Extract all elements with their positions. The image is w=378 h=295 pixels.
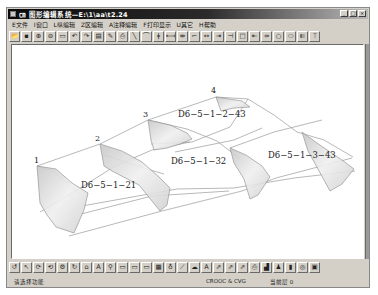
menu-area-edit[interactable]: Z区编辑 (81, 20, 103, 29)
bottom-button-find[interactable]: ⚲ (105, 262, 116, 273)
top-button-redo[interactable]: ↷ (81, 31, 92, 42)
bottom-button-refresh[interactable]: ⟳ (33, 262, 44, 273)
bottom-button-recalc[interactable]: ↻ (69, 262, 80, 273)
export3-icon: ⇗ (240, 264, 245, 271)
top-button-zoom-out[interactable]: ⊖ (45, 31, 56, 42)
top-button-wrench[interactable]: ⌐ (189, 31, 200, 42)
table2-icon: ▭ (131, 264, 137, 271)
top-button-ellipse[interactable]: ⬭ (285, 31, 296, 42)
top-button-save[interactable]: ▪ (21, 31, 32, 42)
bottom-button-chart[interactable]: ▟ (261, 262, 272, 273)
point-label: 2 (95, 134, 100, 143)
close-button[interactable]: × (358, 10, 366, 17)
menu-annotation-edit[interactable]: A注释编辑 (109, 20, 137, 29)
top-button-print[interactable]: ⎙ (117, 31, 128, 42)
rectangle-select-icon: ▭ (59, 33, 65, 40)
top-button-back[interactable]: ⇇ (297, 31, 308, 42)
bottom-button-rotate-left[interactable]: ↺ (9, 262, 20, 273)
maximize-button[interactable]: □ (349, 10, 357, 17)
bottom-button-pointer[interactable]: ↖ (21, 262, 32, 273)
window-title: ㎝ 图形编辑系统—E:\1\aa\t2.24 (19, 9, 128, 19)
top-button-extend-left[interactable]: ⟻ (165, 31, 176, 42)
bottom-button-text[interactable]: A (93, 262, 104, 273)
top-button-rectangle-select[interactable]: ▭ (57, 31, 68, 42)
menu-window[interactable]: I窗口 (34, 20, 48, 29)
top-button-undo[interactable]: ↶ (69, 31, 80, 42)
bottom-button-refresh-all[interactable]: ⟲ (45, 262, 56, 273)
bottom-button-table3[interactable]: ▭ (141, 262, 152, 273)
bottom-button-export3[interactable]: ⇗ (237, 262, 248, 273)
top-button-connect[interactable]: ⇤ (249, 31, 260, 42)
menu-print-display[interactable]: F打印显示 (143, 20, 170, 29)
point-label: 4 (211, 86, 216, 95)
bottom-button-cycle[interactable]: ⚙ (57, 262, 68, 273)
bottom-button-printer[interactable]: ⎙ (249, 262, 260, 273)
chart-icon: ▟ (264, 264, 269, 271)
label-icon: A (204, 264, 208, 271)
section-label: D6−5−1−3−43 (268, 150, 336, 160)
wrench-icon: ⌐ (192, 33, 197, 40)
top-button-layers[interactable]: ▤ (93, 31, 104, 42)
line-icon: ╲ (133, 33, 137, 40)
menu-file[interactable]: E文件 (12, 20, 28, 29)
bottom-button-bulb[interactable]: ♁ (165, 262, 176, 273)
bottom-button-pen[interactable]: ⟋ (177, 262, 188, 273)
cloud-icon: ☁ (191, 264, 198, 271)
top-button-line[interactable]: ╲ (129, 31, 140, 42)
bottom-button-label[interactable]: A (201, 262, 212, 273)
extend-left-icon: ⟻ (166, 33, 175, 40)
person-icon: ♟ (276, 264, 282, 271)
top-button-square[interactable]: □ (237, 31, 248, 42)
bottom-button-table[interactable]: ▭ (117, 262, 128, 273)
top-button-zoom-in[interactable]: ⊕ (33, 31, 44, 42)
section-label: D6−5−1−32 (171, 156, 226, 166)
bottom-button-export2[interactable]: ⇗ (225, 262, 236, 273)
undo-icon: ↶ (72, 33, 77, 40)
document-icon: ▮ (289, 264, 293, 271)
bottom-button-table2[interactable]: ▭ (129, 262, 140, 273)
top-button-pin[interactable]: ⍡ (309, 31, 320, 42)
dimension-icon: ↔ (204, 33, 209, 40)
menu-profile-edit[interactable]: L纵编辑 (54, 20, 75, 29)
top-button-move-point[interactable]: ⊣ (225, 31, 236, 42)
menu-bar: E文件 I窗口 L纵编辑 Z区编辑 A注释编辑 F打印显示 U其它 H帮助 (8, 20, 368, 29)
bottom-toolbar: ↺↖⟳⟲⚙↻⌂A⚲▭▭▭▦♁⟋☁A⇗⇗⇗⎙▟♟▮◎▣ (9, 261, 320, 274)
ellipse-icon: ⬭ (288, 33, 294, 40)
top-button-align[interactable]: ⇥ (213, 31, 224, 42)
bottom-button-export[interactable]: ⇗ (213, 262, 224, 273)
top-button-arc[interactable]: ⌒ (141, 31, 152, 42)
zoom-in-icon: ⊕ (36, 33, 41, 40)
top-button-dimension[interactable]: ↔ (201, 31, 212, 42)
layers-icon: ▤ (95, 33, 101, 40)
bottom-button-document[interactable]: ▮ (285, 262, 296, 273)
top-button-join[interactable]: ⇸ (261, 31, 272, 42)
title-bar[interactable]: ㎝ 图形编辑系统—E:\1\aa\t2.24 _ □ × (8, 9, 368, 19)
bottom-button-settings[interactable]: ▣ (309, 262, 320, 273)
top-button-break[interactable]: ǂ (153, 31, 164, 42)
bottom-button-person[interactable]: ♟ (273, 262, 284, 273)
printer-icon: ⎙ (252, 264, 257, 271)
menu-help[interactable]: H帮助 (199, 20, 216, 29)
drawing-canvas[interactable]: 1234D6−5−1−21D6−5−1−2−43D6−5−1−32D6−5−1−… (11, 44, 364, 259)
bottom-button-grid[interactable]: ▦ (153, 262, 164, 273)
connect-icon: ⇤ (252, 33, 257, 40)
top-button-edit[interactable]: ✎ (105, 31, 116, 42)
bottom-button-shape[interactable]: ⌂ (81, 262, 92, 273)
bottom-button-target[interactable]: ◎ (297, 262, 308, 273)
minimize-button[interactable]: _ (340, 10, 348, 17)
align-icon: ⇥ (216, 33, 221, 40)
redo-icon: ↷ (84, 33, 89, 40)
status-layer: 当前层 0 (270, 278, 293, 286)
point-label: 3 (143, 110, 148, 119)
square-icon: □ (239, 33, 245, 40)
top-button-trim[interactable]: ⇹ (177, 31, 188, 42)
find-icon: ⚲ (108, 264, 113, 271)
top-button-circle[interactable]: ○ (273, 31, 284, 42)
vertical-scrollbar[interactable] (365, 44, 369, 259)
bulb-icon: ♁ (168, 264, 173, 271)
table3-icon: ▭ (143, 264, 149, 271)
save-icon: ▪ (24, 33, 28, 40)
bottom-button-cloud[interactable]: ☁ (189, 262, 200, 273)
top-button-open[interactable]: 📂 (9, 31, 20, 42)
menu-other[interactable]: U其它 (177, 20, 193, 29)
